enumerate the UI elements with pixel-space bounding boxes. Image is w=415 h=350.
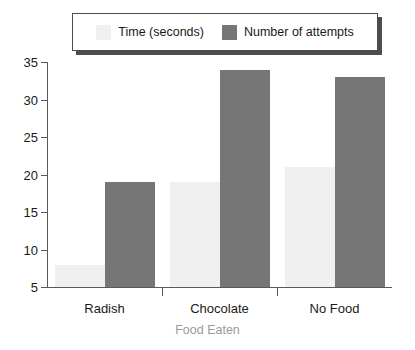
x-axis-category-label: Chocolate: [190, 302, 249, 315]
bar: [55, 265, 105, 288]
plot-area: 5101520253035 RadishChocolateNo Food Foo…: [0, 0, 415, 350]
bar: [335, 77, 385, 287]
bar: [285, 167, 335, 287]
bars-layer: [0, 0, 415, 350]
bar-chart: Time (seconds) Number of attempts 510152…: [0, 0, 415, 350]
bar: [105, 182, 155, 287]
bar: [170, 182, 220, 287]
x-axis-category-label: Radish: [84, 302, 124, 315]
x-axis-title: Food Eaten: [0, 324, 415, 337]
x-axis-category-label: No Food: [310, 302, 360, 315]
bar: [220, 70, 270, 288]
